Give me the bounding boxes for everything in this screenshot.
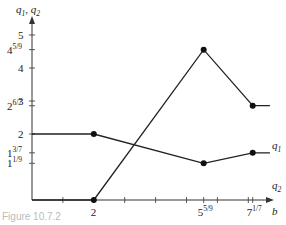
data-point-q2: [201, 160, 207, 166]
ticks: 255/971/7545/94326/7213/711/9: [7, 29, 262, 218]
x-axis-title: b: [272, 205, 278, 217]
y-axis-arrow-icon: [29, 16, 35, 24]
y-tick-label: 2: [18, 128, 24, 140]
x-tick-label: 2: [91, 206, 97, 218]
series-label-q2: q2: [272, 179, 282, 194]
x-tick-label: 71/7: [247, 204, 262, 218]
chart: 255/971/7545/94326/7213/711/9 q1, q2 b q…: [0, 0, 286, 225]
y-tick-label: 11/9: [7, 155, 22, 169]
y-tick-label: 45/9: [7, 42, 22, 56]
data-point-q1: [201, 47, 207, 53]
x-axis-arrow-icon: [266, 197, 274, 203]
y-tick-label: 26/7: [7, 98, 22, 112]
y-tick-label: 5: [18, 29, 24, 41]
figure-caption: Figure 10.7.2: [2, 211, 61, 222]
data-point-q2: [250, 150, 256, 156]
y-axis-title: q1, q2: [16, 3, 40, 18]
y-tick-label: 4: [18, 62, 24, 74]
series-label-q1: q1: [272, 139, 281, 154]
series-lines: [32, 47, 270, 203]
series-line-q2: [32, 134, 270, 163]
data-point-q2: [91, 131, 97, 137]
data-point-q1: [250, 103, 256, 109]
x-tick-label: 55/9: [198, 204, 213, 218]
axes: [29, 16, 274, 203]
series-line-q1: [32, 50, 270, 200]
data-point-q1: [91, 197, 97, 203]
